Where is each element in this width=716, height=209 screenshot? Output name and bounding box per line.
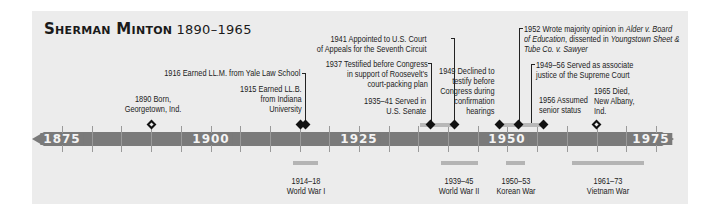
tick-1935 (418, 126, 419, 152)
event-born-line1: 1890 Born, (123, 94, 183, 104)
wwii-range-bar (441, 161, 478, 165)
period-name: Korean War (490, 186, 542, 196)
period-name: Vietnam War (582, 186, 634, 196)
period-name: World War I (280, 186, 332, 196)
event-llb: 1915 Earned LL.B. from Indiana Universit… (240, 84, 302, 114)
event-declined: 1949 Declined to testify before Congress… (439, 66, 494, 116)
period-korean-war: 1950–53 Korean War (490, 176, 542, 196)
event-majority-opinion-line3: Tube Co. v. Sawyer (524, 44, 679, 54)
leader-1916-cap (302, 73, 306, 74)
vietnam-war-range-bar (572, 161, 644, 165)
period-years: 1950–53 (490, 176, 542, 186)
axis-label-1950: 1950 (485, 133, 528, 145)
period-vietnam-war: 1961–73 Vietnam War (582, 176, 634, 196)
leader-1937 (431, 63, 432, 125)
tick-1970 (626, 126, 627, 152)
tick-1910 (270, 126, 271, 152)
axis-label-1975: 1975 (629, 133, 672, 145)
event-court-packing: 1937 Testified before Congress in suppor… (326, 59, 428, 89)
tick-1960 (567, 126, 568, 152)
event-died-line3: Ind. (594, 106, 635, 116)
event-llm: 1916 Earned LL.M. from Yale Law School (164, 68, 300, 78)
text: , dissented in (565, 34, 611, 44)
tick-1905 (240, 126, 241, 152)
leader-1916 (305, 73, 306, 125)
leader-1952 (519, 28, 520, 125)
event-associate-justice-line2: justice of the Supreme Court (536, 70, 633, 80)
timeline-title: Sherman Minton1890–1965 (44, 20, 252, 38)
event-born: 1890 Born, Georgetown, Ind. (123, 94, 183, 114)
event-declined-line1: 1949 Declined to (439, 66, 494, 76)
event-majority-opinion-line2: of Education, dissented in Youngstown Sh… (524, 34, 679, 44)
event-died: 1965 Died, New Albany, Ind. (594, 86, 635, 116)
event-senior-status-line2: senior status (539, 105, 588, 115)
period-name: World War II (433, 186, 485, 196)
tick-1930 (389, 126, 390, 152)
event-appeals-line2: of Appeals for the Seventh Circuit (317, 44, 427, 54)
tick-1945 (478, 126, 479, 152)
text: 1952 Wrote majority opinion in (524, 24, 626, 34)
event-born-line2: Georgetown, Ind. (123, 104, 183, 114)
event-appeals-line1: 1941 Appointed to U.S. Court (317, 34, 427, 44)
tick-1920 (329, 126, 330, 152)
leader-1941-cap (451, 38, 455, 39)
event-senior-status: 1956 Assumed senior status (539, 95, 588, 115)
title-years: 1890–1965 (176, 22, 251, 37)
event-died-line1: 1965 Died, (594, 86, 635, 96)
case-name: Alder v. Board (626, 24, 672, 34)
case-name: of Education (524, 34, 565, 44)
case-name: Youngstown Sheet & (611, 34, 680, 44)
event-died-line2: New Albany, (594, 96, 635, 106)
period-years: 1961–73 (582, 176, 634, 186)
period-years: 1939–45 (433, 176, 485, 186)
title-name: Sherman Minton (44, 20, 172, 38)
korean-war-range-bar (506, 161, 525, 165)
wwi-range-bar (293, 161, 318, 165)
tick-1955 (537, 126, 538, 152)
axis-label-1875: 1875 (40, 133, 83, 145)
event-court-packing-line1: 1937 Testified before Congress (326, 59, 428, 69)
period-years: 1914–18 (280, 176, 332, 186)
event-associate-justice-line1: 1949–56 Served as associate (536, 60, 633, 70)
tick-1915 (300, 126, 301, 152)
period-wwii: 1939–45 World War II (433, 176, 485, 196)
period-wwi: 1914–18 World War I (280, 176, 332, 196)
event-senate-line1: 1935–41 Served in (364, 96, 426, 106)
tick-1895 (181, 126, 182, 152)
event-appeals: 1941 Appointed to U.S. Court of Appeals … (317, 34, 427, 54)
axis-label-1900: 1900 (189, 133, 232, 145)
event-senate-line2: U.S. Senate (364, 106, 426, 116)
event-associate-justice: 1949–56 Served as associate justice of t… (536, 60, 633, 80)
tick-1965 (597, 126, 598, 152)
event-declined-line4: confirmation (439, 96, 494, 106)
leader-1949-56 (531, 64, 532, 123)
event-llb-line1: 1915 Earned LL.B. (240, 84, 302, 94)
tick-1890 (151, 126, 152, 152)
event-senior-status-line1: 1956 Assumed (539, 95, 588, 105)
case-name: Tube Co. v. Sawyer (524, 44, 588, 54)
leader-1952-cap (519, 28, 523, 29)
event-declined-line3: Congress during (439, 86, 494, 96)
leader-1949-56-cap (531, 64, 535, 65)
event-declined-line2: testify before (439, 76, 494, 86)
event-llb-line2: from Indiana (240, 94, 302, 104)
tick-1880 (92, 126, 93, 152)
event-llb-line3: University (240, 104, 302, 114)
event-majority-opinion: 1952 Wrote majority opinion in Alder v. … (524, 24, 679, 54)
tick-1885 (121, 126, 122, 152)
axis-label-1925: 1925 (337, 133, 380, 145)
event-declined-line5: hearings (439, 106, 494, 116)
leader-1937-cap (428, 63, 432, 64)
event-majority-opinion-line1: 1952 Wrote majority opinion in Alder v. … (524, 24, 679, 34)
tick-1940 (448, 126, 449, 152)
event-court-packing-line2: in support of Roosevelt’s (326, 69, 428, 79)
event-court-packing-line3: court-packing plan (326, 79, 428, 89)
event-senate: 1935–41 Served in U.S. Senate (364, 96, 426, 116)
